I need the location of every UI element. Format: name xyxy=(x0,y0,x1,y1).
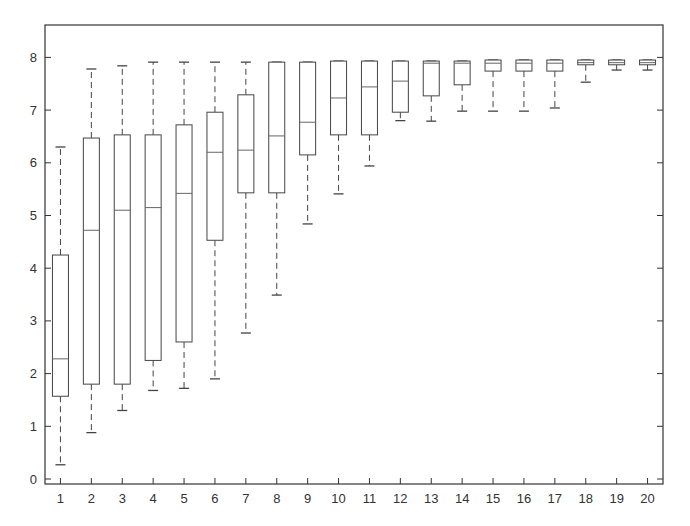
x-tick-label: 12 xyxy=(393,491,407,506)
y-tick-label: 8 xyxy=(30,50,37,65)
box-9 xyxy=(300,62,316,224)
y-tick-label: 3 xyxy=(30,313,37,328)
x-tick-label: 7 xyxy=(242,491,249,506)
x-tick-label: 15 xyxy=(486,491,500,506)
x-tick-label: 3 xyxy=(119,491,126,506)
box-18 xyxy=(578,60,594,82)
iqr-box xyxy=(454,61,470,85)
y-tick-label: 6 xyxy=(30,155,37,170)
iqr-box xyxy=(207,112,223,240)
iqr-box xyxy=(485,60,501,71)
x-tick-label: 13 xyxy=(424,491,438,506)
iqr-box xyxy=(423,61,439,96)
box-8 xyxy=(269,62,285,295)
iqr-box xyxy=(145,135,161,361)
axes-box xyxy=(45,25,663,484)
iqr-box xyxy=(114,135,130,384)
x-tick-label: 5 xyxy=(180,491,187,506)
iqr-box xyxy=(300,62,316,155)
box-7 xyxy=(238,62,254,333)
iqr-box xyxy=(238,95,254,193)
iqr-box xyxy=(516,60,532,71)
y-tick-label: 0 xyxy=(30,472,37,487)
x-tick-label: 4 xyxy=(150,491,157,506)
box-19 xyxy=(609,60,625,70)
y-tick-label: 1 xyxy=(30,419,37,434)
box-11 xyxy=(361,61,377,166)
x-tick-label: 2 xyxy=(88,491,95,506)
box-12 xyxy=(392,61,408,121)
x-tick-label: 16 xyxy=(517,491,531,506)
box-5 xyxy=(176,62,192,388)
plot-frame xyxy=(45,25,663,484)
box-1 xyxy=(52,147,68,465)
iqr-box xyxy=(547,60,563,71)
y-tick-label: 7 xyxy=(30,103,37,118)
iqr-box xyxy=(83,138,99,384)
boxes xyxy=(52,60,655,465)
x-tick-label: 8 xyxy=(273,491,280,506)
x-tick-label: 14 xyxy=(455,491,469,506)
x-tick-label: 20 xyxy=(640,491,654,506)
box-13 xyxy=(423,61,439,121)
box-16 xyxy=(516,60,532,111)
iqr-box xyxy=(392,61,408,112)
box-15 xyxy=(485,60,501,111)
y-tick-label: 4 xyxy=(30,261,37,276)
x-tick-label: 6 xyxy=(211,491,218,506)
box-14 xyxy=(454,61,470,111)
iqr-box xyxy=(52,255,68,396)
x-axis: 1234567891011121314151617181920 xyxy=(57,478,655,506)
x-tick-label: 18 xyxy=(579,491,593,506)
iqr-box xyxy=(176,125,192,342)
x-tick-label: 17 xyxy=(548,491,562,506)
y-tick-label: 2 xyxy=(30,366,37,381)
iqr-box xyxy=(269,62,285,193)
boxplot-chart: 012345678 123456789101112131415161718192… xyxy=(0,0,690,526)
x-tick-label: 19 xyxy=(609,491,623,506)
x-tick-label: 11 xyxy=(363,491,377,506)
box-2 xyxy=(83,69,99,433)
box-20 xyxy=(640,60,656,70)
y-tick-label: 5 xyxy=(30,208,37,223)
box-4 xyxy=(145,62,161,390)
box-10 xyxy=(331,61,347,194)
x-tick-label: 10 xyxy=(331,491,345,506)
box-3 xyxy=(114,66,130,411)
x-tick-label: 1 xyxy=(57,491,64,506)
iqr-box xyxy=(361,61,377,135)
x-tick-label: 9 xyxy=(304,491,311,506)
box-17 xyxy=(547,60,563,108)
box-6 xyxy=(207,62,223,379)
